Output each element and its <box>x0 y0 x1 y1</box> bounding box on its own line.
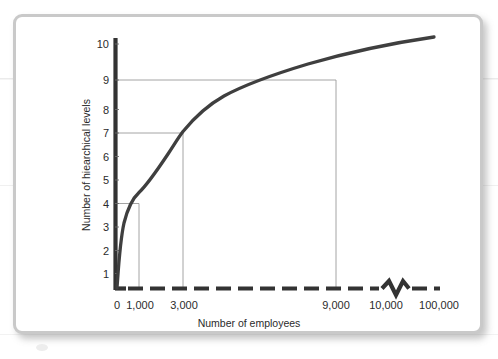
y-tick-label-5: 5 <box>103 174 109 186</box>
scan-smudge-artifact <box>36 344 48 351</box>
y-tick-label-8: 8 <box>103 104 109 116</box>
y-tick-label-4: 4 <box>103 198 109 210</box>
y-tick-label-3: 3 <box>103 221 109 233</box>
x-tick-label-100000: 100,000 <box>419 299 459 311</box>
scan-artifact-line-4 <box>0 334 498 335</box>
y-tick-label-9: 9 <box>103 74 109 86</box>
x-tick-label-1000: 1,000 <box>126 299 154 311</box>
y-tick-label-2: 2 <box>103 245 109 257</box>
x-tick-label-9000: 9,000 <box>322 299 350 311</box>
line-chart: 10 9 8 7 6 5 4 3 2 1 0 1,000 3,000 9,000… <box>16 17 480 331</box>
figure-frame: 10 9 8 7 6 5 4 3 2 1 0 1,000 3,000 9,000… <box>13 14 483 334</box>
y-tick-label-1: 1 <box>103 268 109 280</box>
y-tick-label-10: 10 <box>97 38 109 50</box>
axis-break-zigzag-icon <box>382 281 409 295</box>
y-axis-tick-labels: 10 9 8 7 6 5 4 3 2 1 <box>97 38 109 280</box>
x-axis-title: Number of employees <box>198 317 301 329</box>
data-curve <box>117 37 434 288</box>
x-tick-label-0: 0 <box>114 299 120 311</box>
y-tick-label-7: 7 <box>103 127 109 139</box>
x-axis-tick-labels: 0 1,000 3,000 9,000 10,000 100,000 <box>114 299 459 311</box>
x-tick-label-3000: 3,000 <box>170 299 198 311</box>
y-axis-title: Number of hiearchical levels <box>80 99 92 231</box>
x-tick-label-10000: 10,000 <box>369 299 403 311</box>
plot-area: 10 9 8 7 6 5 4 3 2 1 0 1,000 3,000 9,000… <box>16 17 480 331</box>
y-tick-label-6: 6 <box>103 151 109 163</box>
x-axis-line <box>115 281 440 295</box>
